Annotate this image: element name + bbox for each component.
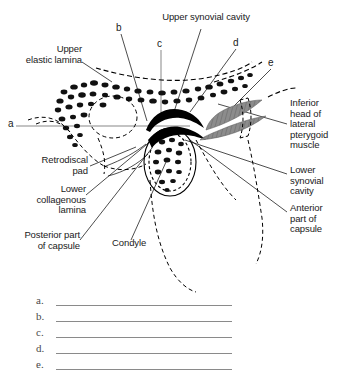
marker-b: b [116, 22, 122, 33]
temporal-fossa-circle [89, 96, 137, 174]
answer-row-d[interactable]: d. [36, 338, 236, 354]
label-lower-synovial-cavity: Lower synovial cavity [290, 165, 350, 197]
marker-a: a [8, 118, 14, 129]
label-posterior-part-of-capsule: Posterior part of capsule [2, 230, 80, 251]
answer-line-c[interactable] [56, 326, 232, 338]
answer-line-b[interactable] [56, 310, 232, 322]
leader-lower-collagenous [86, 140, 152, 195]
marker-c: c [157, 38, 162, 49]
answer-letter-c: c. [36, 326, 52, 338]
leader-lower-synovial [185, 140, 287, 174]
temporal-bone-outline [96, 62, 296, 97]
answer-letter-b: b. [36, 310, 52, 322]
marker-d: d [233, 37, 239, 48]
lateral-pterygoid-muscle [200, 100, 266, 140]
answer-line-d[interactable] [56, 342, 232, 354]
answer-row-e[interactable]: e. [36, 354, 236, 370]
label-condyle: Condyle [112, 238, 172, 249]
answer-letter-a: a. [36, 294, 52, 306]
anatomy-figure: Upper synovial cavity Upper elastic lami… [0, 0, 351, 375]
answer-line-a[interactable] [56, 294, 232, 306]
answer-row-c[interactable]: c. [36, 322, 236, 338]
leader-anterior-capsule [190, 140, 287, 212]
leader-b [121, 34, 147, 121]
answer-letter-d: d. [36, 342, 52, 354]
label-upper-synovial-cavity: Upper synovial cavity [146, 12, 266, 23]
label-anterior-part-of-capsule: Anterior part of capsule [290, 203, 350, 235]
label-inferior-head-lateral-pterygoid: Inferior head of lateral pterygoid muscl… [290, 98, 350, 151]
answer-row-b[interactable]: b. [36, 306, 236, 322]
condyle-outline [144, 128, 196, 196]
leader-condyle [131, 162, 166, 240]
leader-upper-elastic [82, 62, 112, 82]
label-lower-collagenous-lamina: Lower collagenous lamina [4, 184, 86, 216]
label-upper-elastic-lamina: Upper elastic lamina [4, 44, 82, 65]
answer-letter-e: e. [36, 358, 52, 370]
condyle-stipple [153, 138, 184, 192]
answer-row-a[interactable]: a. [36, 290, 236, 306]
label-retrodiscal-pad: Retrodiscal pad [8, 155, 88, 176]
leader-upper-synovial [172, 29, 201, 118]
answer-blanks: a. b. c. d. e. [36, 290, 236, 370]
answer-line-e[interactable] [56, 358, 232, 370]
marker-e: e [268, 57, 274, 68]
